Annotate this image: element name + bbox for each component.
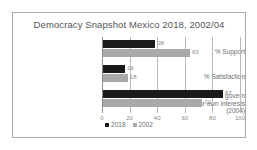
legend-item-2018[interactable]: 2018 xyxy=(105,121,125,128)
bar-value-2002: 72 xyxy=(204,98,211,106)
bar-group-satisfaction: 16 18 xyxy=(102,64,240,86)
legend-label: 2018 xyxy=(111,121,125,128)
legend-swatch-icon xyxy=(105,123,109,127)
bar-group-powerful-govern: 87 72 xyxy=(102,89,240,111)
bar-2018[interactable] xyxy=(103,65,125,73)
bar-group-support: 38 63 xyxy=(102,39,240,61)
bar-2002[interactable] xyxy=(103,49,190,57)
gridline-100 xyxy=(240,37,241,113)
bar-2002[interactable] xyxy=(103,74,128,82)
bar-value-2018: 87 xyxy=(225,89,232,97)
chart-title: Democracy Snapshot Mexico 2018, 2002/04 xyxy=(13,19,245,30)
legend-item-2002[interactable]: 2002 xyxy=(133,121,153,128)
chart-container: Democracy Snapshot Mexico 2018, 2002/04 … xyxy=(12,12,246,138)
bar-value-2018: 16 xyxy=(127,64,134,72)
plot-area: 0 20 40 60 80 100 38 63 16 18 87 72 xyxy=(102,37,240,113)
legend-label: 2002 xyxy=(139,121,153,128)
chart-legend: 2018 2002 xyxy=(13,121,245,128)
bar-value-2002: 18 xyxy=(130,73,137,81)
bar-2018[interactable] xyxy=(103,90,223,98)
bar-value-2002: 63 xyxy=(192,48,199,56)
bar-2002[interactable] xyxy=(103,99,202,107)
legend-swatch-icon xyxy=(133,123,137,127)
bar-2018[interactable] xyxy=(103,40,155,48)
bar-value-2018: 38 xyxy=(157,39,164,47)
